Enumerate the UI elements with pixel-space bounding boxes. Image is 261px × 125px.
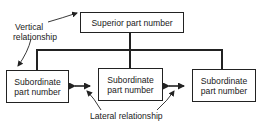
subordinate-1-line1: Subordinate bbox=[14, 77, 60, 87]
subordinate-1-line2: part number bbox=[14, 87, 60, 97]
lateral-relationship-label: Lateral relationship bbox=[90, 111, 163, 121]
subordinate-box-1: Subordinate part number bbox=[6, 70, 69, 103]
superior-part-number-box: Superior part number bbox=[80, 12, 184, 33]
vertical-relationship-label: Vertical relationship bbox=[13, 22, 57, 42]
subordinate-box-2: Subordinate part number bbox=[98, 68, 163, 101]
vertical-label-line2: relationship bbox=[13, 32, 57, 42]
tree-lines bbox=[37, 32, 222, 70]
subordinate-2-line2: part number bbox=[107, 85, 153, 95]
vertical-label-line1: Vertical bbox=[13, 22, 57, 32]
superior-label: Superior part number bbox=[91, 18, 172, 28]
subordinate-3-line1: Subordinate bbox=[201, 76, 247, 86]
subordinate-2-line1: Subordinate bbox=[107, 75, 153, 85]
subordinate-box-3: Subordinate part number bbox=[192, 69, 256, 102]
subordinate-3-line2: part number bbox=[201, 86, 247, 96]
